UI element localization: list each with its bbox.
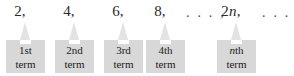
term-box-3-notch bbox=[118, 40, 129, 44]
term-box-2-word: term bbox=[64, 57, 84, 71]
pointer-triangle-3 bbox=[118, 22, 128, 40]
pointer-triangle-n bbox=[231, 22, 241, 40]
sequence-value-n-variable: n bbox=[229, 3, 237, 19]
term-box-3-word: term bbox=[113, 57, 133, 71]
term-box-1-word: term bbox=[15, 57, 35, 71]
term-box-3: 3rd term bbox=[104, 40, 143, 73]
sequence-value-1: 2, bbox=[8, 1, 32, 21]
sequence-value-n-comma: , bbox=[237, 3, 241, 19]
pointer-triangle-1 bbox=[20, 22, 30, 40]
term-box-4-notch bbox=[160, 40, 171, 44]
term-box-n-ordinal: nth bbox=[229, 43, 243, 57]
term-box-n-notch bbox=[231, 40, 242, 44]
pointer-triangle-2 bbox=[69, 22, 79, 40]
term-box-n-suffix: th bbox=[235, 44, 244, 56]
term-box-4-word: term bbox=[155, 57, 175, 71]
term-box-2-notch bbox=[69, 40, 80, 44]
pointer-triangle-4 bbox=[160, 22, 170, 40]
term-box-4: 4th term bbox=[146, 40, 185, 73]
sequence-ellipsis-end: . . . bbox=[262, 3, 291, 23]
term-box-1: 1st term bbox=[6, 40, 45, 73]
term-box-1-notch bbox=[20, 40, 31, 44]
term-box-3-ordinal: 3rd bbox=[116, 43, 131, 57]
term-box-n-word: term bbox=[226, 57, 246, 71]
sequence-value-n-coefficient: 2 bbox=[221, 3, 229, 19]
sequence-value-n: 2n, bbox=[215, 1, 247, 21]
term-box-1-ordinal: 1st bbox=[19, 43, 32, 57]
sequence-value-4: 8, bbox=[148, 1, 172, 21]
sequence-value-3: 6, bbox=[106, 1, 130, 21]
sequence-term-figure: 2, 4, 6, 8, . . . , 2n, . . . 1st term 2… bbox=[0, 0, 294, 76]
term-box-4-ordinal: 4th bbox=[158, 43, 172, 57]
sequence-value-2: 4, bbox=[57, 1, 81, 21]
term-box-2-ordinal: 2nd bbox=[66, 43, 83, 57]
term-box-2: 2nd term bbox=[55, 40, 94, 73]
term-box-n: nth term bbox=[217, 40, 256, 73]
